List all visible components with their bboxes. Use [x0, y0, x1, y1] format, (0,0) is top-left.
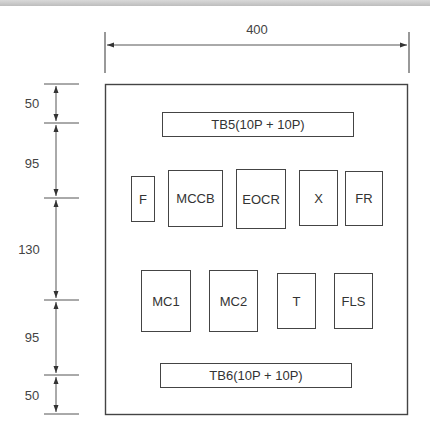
- vertical-dimension-label-4: 95: [18, 330, 46, 345]
- vertical-dimension-label-5: 50: [18, 388, 46, 403]
- component-mc1: MC1: [141, 270, 191, 332]
- component-fls: FLS: [334, 273, 373, 329]
- vertical-dimension-label-3: 130: [12, 242, 46, 257]
- component-fr: FR: [345, 171, 383, 226]
- width-dimension-label: 400: [242, 22, 272, 37]
- component-mc2: MC2: [209, 270, 258, 332]
- vertical-dimension-label-1: 50: [18, 96, 46, 111]
- terminal-block-tb6: TB6(10P + 10P): [160, 363, 352, 388]
- component-mccb: MCCB: [168, 170, 223, 227]
- component-timer-t: T: [277, 273, 316, 329]
- component-relay-x: X: [299, 170, 338, 226]
- terminal-block-tb5: TB5(10P + 10P): [162, 112, 354, 137]
- component-fuse: F: [131, 176, 155, 222]
- vertical-dimension-label-2: 95: [18, 156, 46, 171]
- component-eocr: EOCR: [236, 169, 286, 229]
